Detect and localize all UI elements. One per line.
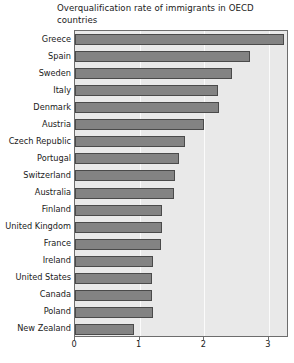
y-axis-label: Finland [1,204,71,214]
bar [75,307,153,318]
x-axis-tick-label: 2 [193,339,213,349]
x-axis-tick-label: 3 [258,339,278,349]
y-axis-label: United Kingdom [1,221,71,231]
bar [75,153,179,164]
y-axis-label: New Zealand [1,323,71,333]
y-axis-label: Poland [1,306,71,316]
bar [75,290,152,301]
x-axis-tick-labels: 0123 [74,339,288,353]
plot-area [74,30,288,337]
bar [75,273,152,284]
y-axis-label: Switzerland [1,170,71,180]
x-axis-tick-mark [268,337,269,340]
bar [75,51,250,62]
bar [75,222,162,233]
bar [75,239,161,250]
y-axis-category-labels: GreeceSpainSwedenItalyDenmarkAustriaCzec… [0,30,71,337]
bar [75,68,232,79]
y-axis-label: Denmark [1,102,71,112]
bar [75,324,134,335]
bar [75,205,162,216]
x-axis-tick-mark [139,337,140,340]
y-axis-label: Czech Republic [1,136,71,146]
y-axis-label: Greece [1,34,71,44]
bar [75,85,218,96]
y-axis-label: Canada [1,289,71,299]
y-axis-label: Sweden [1,68,71,78]
y-axis-label: Ireland [1,255,71,265]
bar [75,170,175,181]
bar [75,34,284,45]
y-axis-label: Spain [1,51,71,61]
bar [75,136,185,147]
bar [75,102,219,113]
y-axis-label: Italy [1,85,71,95]
chart-figure: Overqualification rate of immigrants in … [0,0,294,363]
bar [75,188,174,199]
y-axis-label: United States [1,272,71,282]
x-axis-tick-mark [74,337,75,340]
bar [75,256,153,267]
y-axis-label: France [1,238,71,248]
x-axis-tick-mark [203,337,204,340]
y-axis-label: Austria [1,119,71,129]
bar [75,119,204,130]
y-axis-label: Portugal [1,153,71,163]
x-axis-tick-label: 1 [129,339,149,349]
chart-title: Overqualification rate of immigrants in … [57,2,292,26]
gridline-x-3 [269,31,270,336]
x-axis-tick-label: 0 [64,339,84,349]
y-axis-label: Australia [1,187,71,197]
